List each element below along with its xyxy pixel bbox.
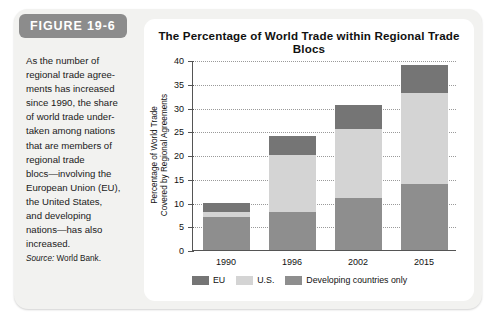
y-axis-title: Percentage of World Trade Covered by Reg… bbox=[149, 57, 171, 252]
legend-label: U.S. bbox=[257, 275, 274, 285]
legend-item: EU bbox=[192, 275, 225, 285]
figure-badge-label: FIGURE 19-6 bbox=[30, 19, 116, 33]
figure-caption-text: As the number of regional trade agree- m… bbox=[26, 54, 138, 251]
x-axis-tick-label: 1996 bbox=[282, 257, 302, 267]
bar-segment bbox=[269, 212, 316, 250]
figure-source-line: Source: World Bank. bbox=[26, 254, 138, 263]
bar-segment bbox=[269, 136, 316, 155]
x-axis-tick-label: 2002 bbox=[348, 257, 368, 267]
bar-stack bbox=[203, 203, 250, 251]
figure-panel: FIGURE 19-6 As the number of regional tr… bbox=[14, 9, 482, 309]
y-axis-title-line2: Covered by Regional Agreements bbox=[160, 93, 170, 215]
legend-item: U.S. bbox=[236, 275, 274, 285]
bar-segment bbox=[335, 129, 382, 198]
y-axis-tick-label: 40 bbox=[174, 56, 184, 66]
legend-swatch bbox=[285, 276, 302, 285]
y-axis-tick-label: 20 bbox=[174, 151, 184, 161]
bar-segment bbox=[401, 184, 448, 251]
y-axis-tick bbox=[188, 204, 194, 205]
y-axis-tick-label: 25 bbox=[174, 127, 184, 137]
bar-stack bbox=[401, 65, 448, 250]
x-axis-tick-label: 2015 bbox=[414, 257, 434, 267]
y-axis-tick bbox=[188, 156, 194, 157]
legend-label: Developing countries only bbox=[306, 275, 407, 285]
bar-segment bbox=[203, 217, 250, 250]
y-axis-tick-label: 0 bbox=[179, 246, 184, 256]
y-axis-tick bbox=[188, 132, 194, 133]
bar-segment bbox=[335, 105, 382, 129]
legend-swatch bbox=[236, 276, 253, 285]
bar-segment bbox=[203, 203, 250, 213]
legend-item: Developing countries only bbox=[285, 275, 407, 285]
bar-segment bbox=[401, 65, 448, 94]
y-axis-tick-label: 35 bbox=[174, 80, 184, 90]
y-axis-tick bbox=[188, 109, 194, 110]
legend-label: EU bbox=[213, 275, 225, 285]
y-axis-tick bbox=[188, 61, 194, 62]
bar-stack bbox=[269, 136, 316, 250]
legend-swatch bbox=[192, 276, 209, 285]
y-axis-tick-label: 5 bbox=[179, 222, 184, 232]
chart-title: The Percentage of World Trade within Reg… bbox=[144, 29, 474, 55]
y-axis-tick bbox=[188, 227, 194, 228]
y-axis-title-line1: Percentage of World Trade bbox=[150, 93, 160, 215]
figure-source-label: Source: bbox=[26, 254, 54, 263]
y-axis-tick bbox=[188, 85, 194, 86]
y-axis-tick-label: 15 bbox=[174, 175, 184, 185]
y-axis-tick bbox=[188, 180, 194, 181]
figure-caption-block: As the number of regional trade agree- m… bbox=[26, 54, 138, 263]
bar-stack bbox=[335, 105, 382, 250]
plot-wrapper: 05101520253035401990199620022015 bbox=[192, 61, 456, 251]
bar-segment bbox=[335, 198, 382, 250]
gridline bbox=[193, 61, 456, 62]
x-axis-tick-label: 1990 bbox=[216, 257, 236, 267]
figure-badge: FIGURE 19-6 bbox=[19, 14, 127, 38]
chart-card: The Percentage of World Trade within Reg… bbox=[144, 19, 474, 301]
y-axis-tick-label: 30 bbox=[174, 104, 184, 114]
bar-segment bbox=[401, 93, 448, 183]
bar-segment bbox=[269, 155, 316, 212]
y-axis-tick-label: 10 bbox=[174, 199, 184, 209]
y-axis-tick bbox=[188, 251, 194, 252]
plot-area: 05101520253035401990199620022015 bbox=[192, 61, 456, 251]
chart-legend: EUU.S.Developing countries only bbox=[192, 275, 462, 285]
figure-source-value: World Bank. bbox=[57, 254, 101, 263]
